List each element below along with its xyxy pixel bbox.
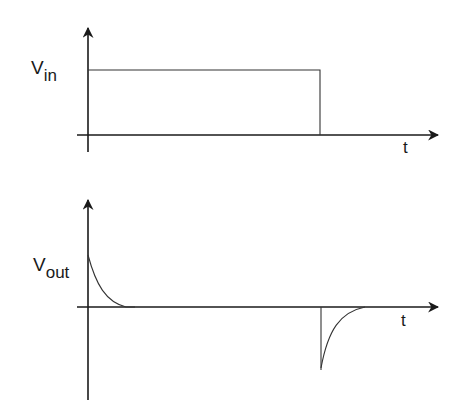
vout-negative-spike xyxy=(321,307,365,368)
vin-label: Vin xyxy=(31,58,57,77)
vin-label-sub: in xyxy=(44,66,57,85)
vout-t-label: t xyxy=(401,311,406,331)
waveform-diagram xyxy=(0,0,464,417)
vout-positive-spike xyxy=(88,255,135,307)
vin-label-main: V xyxy=(31,57,44,78)
vout-plot xyxy=(77,200,438,400)
vout-label-main: V xyxy=(33,254,46,275)
vin-plot xyxy=(77,28,438,152)
vin-t-label: t xyxy=(403,138,408,158)
vout-label-sub: out xyxy=(46,263,70,282)
vout-label: Vout xyxy=(33,255,69,274)
vin-pulse xyxy=(88,70,320,135)
